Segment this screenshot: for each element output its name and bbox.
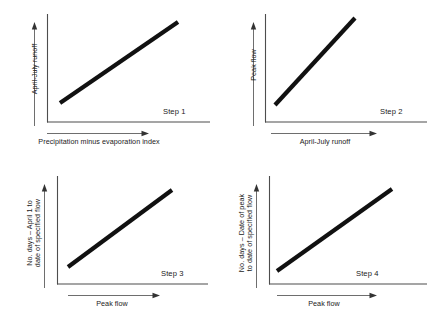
trend-line bbox=[277, 189, 392, 271]
x-axis-label-arrow-icon bbox=[47, 131, 149, 136]
trend-line bbox=[68, 190, 172, 267]
axis-lines bbox=[57, 176, 208, 285]
panel-step-1: April-July runoff Precipitation minus ev… bbox=[0, 0, 218, 160]
step-caption: Step 4 bbox=[356, 269, 379, 278]
step-caption: Step 1 bbox=[163, 107, 186, 116]
step-caption: Step 3 bbox=[161, 269, 184, 278]
trend-line bbox=[275, 18, 355, 105]
x-axis-label-text: Peak flow bbox=[308, 299, 340, 308]
trend-line bbox=[60, 22, 178, 103]
panel-step-2: Peak flow April-July runoff Step 2 bbox=[219, 0, 437, 160]
x-axis-label-arrow-icon bbox=[277, 293, 377, 298]
x-axis-label: Peak flow bbox=[74, 299, 150, 308]
x-axis-label: Precipitation minus evaporation index bbox=[24, 137, 174, 146]
panel-step-3: No. days – April 1 to date of specified … bbox=[0, 161, 218, 321]
step-caption-text: Step 4 bbox=[356, 269, 379, 278]
x-axis-label-arrow-icon bbox=[68, 293, 160, 298]
y-axis-label-line-2: to date of specified flow bbox=[245, 195, 254, 271]
step-caption-text: Step 2 bbox=[380, 107, 403, 116]
step-caption: Step 2 bbox=[380, 107, 403, 116]
x-axis-label-text: Peak flow bbox=[96, 299, 128, 308]
y-axis-label: April-July runoff bbox=[31, 26, 40, 112]
step-caption-text: Step 3 bbox=[161, 269, 184, 278]
x-axis-label: Peak flow bbox=[286, 299, 362, 308]
y-axis-label: Peak flow bbox=[250, 25, 259, 105]
y-axis-label-line-2: date of specified flow bbox=[33, 199, 42, 267]
y-axis-label: No. days – Date of peak to date of speci… bbox=[238, 180, 255, 286]
y-axis-label: No. days – April 1 to date of specified … bbox=[26, 183, 43, 283]
panel-step-4: No. days – Date of peak to date of speci… bbox=[219, 161, 437, 321]
axis-lines bbox=[269, 176, 427, 285]
y-axis-label-line-1: April-July runoff bbox=[30, 44, 39, 95]
x-axis-label-text: April-July runoff bbox=[300, 137, 351, 146]
x-axis-label-arrow-icon bbox=[271, 131, 377, 136]
step-caption-text: Step 1 bbox=[163, 107, 186, 116]
four-panel-regression-figure: April-July runoff Precipitation minus ev… bbox=[0, 0, 437, 321]
y-axis-label-line-1: Peak flow bbox=[249, 49, 258, 81]
x-axis-label-text: Precipitation minus evaporation index bbox=[38, 137, 159, 146]
x-axis-label: April-July runoff bbox=[267, 137, 383, 146]
